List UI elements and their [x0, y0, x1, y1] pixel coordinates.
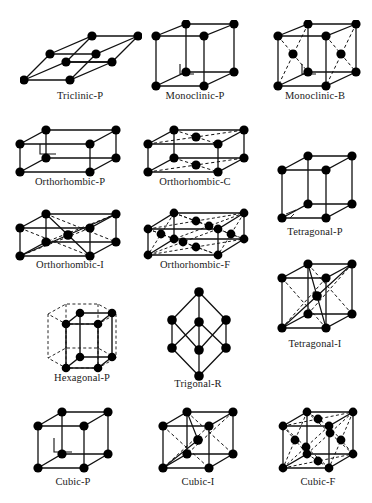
lattice-nodes — [20, 31, 142, 84]
lattice-triclinic-p — [20, 28, 142, 90]
caption-trigonal-r: Trigonal-R — [138, 378, 258, 389]
caption-orthorhombic-c: Orthorhombic-C — [133, 176, 257, 187]
caption-cubic-f: Cubic-F — [263, 476, 372, 487]
lattice-monoclinic-b — [272, 20, 364, 94]
lattice-orthorhombic-i — [14, 208, 124, 264]
primitive-cell-edges — [66, 313, 112, 368]
caption-orthorhombic-f: Orthorhombic-F — [133, 259, 257, 270]
lattice-orthorhombic-f — [140, 205, 256, 265]
lattice-trigonal-r — [162, 286, 236, 382]
lattice-nodes — [15, 125, 120, 176]
lattice-nodes — [143, 125, 248, 176]
lattice-nodes — [144, 209, 249, 260]
caption-tetragonal-i: Tetragonal-I — [255, 338, 372, 349]
lattice-hexagonal-p — [40, 294, 126, 376]
caption-monoclinic-p: Monoclinic-P — [135, 90, 255, 101]
lattice-nodes — [273, 20, 360, 91]
caption-triclinic-p: Triclinic-P — [20, 90, 140, 101]
lattice-nodes — [151, 20, 238, 91]
caption-cubic-p: Cubic-P — [18, 476, 128, 487]
lattice-orthorhombic-p — [14, 124, 124, 180]
caption-orthorhombic-p: Orthorhombic-P — [8, 176, 132, 187]
lattice-tetragonal-i — [276, 258, 360, 342]
caption-cubic-i: Cubic-I — [143, 476, 253, 487]
body-center-solid-lines — [163, 412, 198, 468]
lattice-nodes — [277, 151, 356, 222]
lattice-nodes — [15, 209, 120, 260]
caption-monoclinic-b: Monoclinic-B — [255, 90, 372, 101]
lattice-nodes — [33, 407, 112, 472]
lattice-cubic-p — [32, 404, 116, 480]
caption-orthorhombic-i: Orthorhombic-I — [8, 259, 132, 270]
lattice-tetragonal-p — [276, 150, 360, 230]
lattice-cubic-i — [157, 404, 241, 480]
caption-hexagonal-p: Hexagonal-P — [22, 372, 142, 383]
lattice-orthorhombic-c — [142, 124, 254, 180]
bravais-lattices-figure: Triclinic-P Monoclinic-P — [0, 0, 372, 503]
right-angle-marker — [40, 144, 56, 154]
lattice-nodes — [279, 408, 358, 473]
lattice-cubic-f — [277, 404, 361, 480]
lattice-monoclinic-p — [150, 20, 242, 94]
caption-tetragonal-p: Tetragonal-P — [255, 226, 372, 237]
